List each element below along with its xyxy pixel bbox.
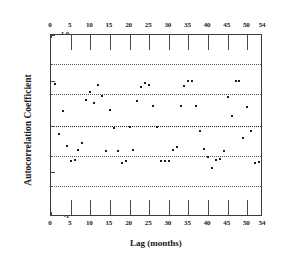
x-axis-title: Lag (months): [50, 238, 262, 248]
x-label-bottom-35: 35: [184, 219, 191, 227]
x-label-top-50: 50: [243, 21, 250, 29]
x-label-top-15: 15: [106, 21, 113, 29]
plot-area: [50, 34, 262, 216]
y-axis-title: Autocorrelation Coefficient: [23, 40, 33, 220]
data-point: [199, 130, 201, 132]
x-edge-tick-bottom-5: [71, 212, 72, 215]
x-label-bottom-40: 40: [204, 219, 211, 227]
x-label-bottom-10: 10: [86, 219, 93, 227]
data-point: [187, 80, 189, 82]
data-point: [183, 85, 185, 87]
data-point: [101, 95, 103, 97]
x-edge-tick-top-25: [149, 35, 150, 38]
data-point: [93, 102, 95, 104]
data-point: [113, 127, 115, 129]
x-edge-tick-bottom-20: [130, 212, 131, 215]
lower-inner-band: [51, 156, 261, 157]
data-point: [176, 146, 178, 148]
data-point: [109, 109, 111, 111]
data-point: [89, 91, 91, 93]
data-point: [180, 105, 182, 107]
x-edge-tick-top-20: [130, 35, 131, 38]
x-label-bottom-45: 45: [223, 219, 230, 227]
x-label-bottom-50: 50: [243, 219, 250, 227]
x-label-top-25: 25: [145, 21, 152, 29]
data-point: [62, 110, 64, 112]
data-point: [74, 159, 76, 161]
x-edge-tick-top-5: [71, 35, 72, 38]
x-edge-tick-top-10: [90, 35, 91, 38]
data-point: [231, 115, 233, 117]
x-label-bottom-25: 25: [145, 219, 152, 227]
data-point: [211, 167, 213, 169]
data-point: [97, 84, 99, 86]
data-point: [156, 126, 158, 128]
x-edge-tick-bottom-25: [149, 212, 150, 215]
x-label-bottom-0: 0: [48, 219, 51, 227]
x-edge-tick-top-50: [247, 35, 248, 38]
y-edge-tick-0.5: [51, 81, 55, 82]
x-label-top-20: 20: [125, 21, 132, 29]
lower-outer-band: [51, 186, 261, 187]
autocorrelation-scatter-figure: Autocorrelation Coefficient 1.00.50-0.5-…: [0, 0, 285, 260]
x-label-top-0: 0: [48, 21, 51, 29]
x-label-top-35: 35: [184, 21, 191, 29]
data-point: [105, 150, 107, 152]
data-point: [207, 156, 209, 158]
x-edge-tick-top-40: [208, 35, 209, 38]
data-point: [160, 160, 162, 162]
upper-inner-band: [51, 94, 261, 95]
x-label-top-10: 10: [86, 21, 93, 29]
data-point: [136, 100, 138, 102]
data-point: [223, 150, 225, 152]
data-point: [195, 105, 197, 107]
data-point: [66, 145, 68, 147]
data-point: [152, 105, 154, 107]
x-label-top-5: 5: [68, 21, 71, 29]
x-edge-tick-bottom-40: [208, 212, 209, 215]
x-edge-tick-top-15: [110, 35, 111, 38]
x-edge-tick-bottom-15: [110, 212, 111, 215]
data-point: [77, 149, 79, 151]
data-point: [242, 137, 244, 139]
data-point: [172, 149, 174, 151]
data-point: [215, 159, 217, 161]
y-edge-tick--0.5: [51, 172, 55, 173]
data-point: [168, 160, 170, 162]
data-point: [54, 83, 56, 85]
data-point: [132, 149, 134, 151]
data-point: [246, 106, 248, 108]
x-label-bottom-54: 54: [259, 219, 266, 227]
data-point: [258, 161, 260, 163]
x-label-bottom-30: 30: [164, 219, 171, 227]
x-label-top-30: 30: [164, 21, 171, 29]
y-edge-tick-1: [51, 35, 55, 36]
x-label-bottom-5: 5: [68, 219, 71, 227]
x-label-top-54: 54: [259, 21, 266, 29]
data-point: [117, 150, 119, 152]
data-point: [238, 80, 240, 82]
x-label-bottom-20: 20: [125, 219, 132, 227]
data-point: [254, 162, 256, 164]
x-edge-tick-bottom-45: [228, 212, 229, 215]
data-point: [85, 99, 87, 101]
x-label-top-45: 45: [223, 21, 230, 29]
x-edge-tick-bottom-30: [169, 212, 170, 215]
x-edge-tick-bottom-0: [51, 212, 52, 215]
data-point: [235, 80, 237, 82]
data-point: [203, 148, 205, 150]
data-point: [250, 130, 252, 132]
x-edge-tick-bottom-50: [247, 212, 248, 215]
data-point: [144, 82, 146, 84]
x-edge-tick-top-30: [169, 35, 170, 38]
data-point: [129, 126, 131, 128]
x-label-top-40: 40: [204, 21, 211, 29]
data-point: [121, 162, 123, 164]
data-point: [125, 160, 127, 162]
x-edge-tick-top-35: [188, 35, 189, 38]
data-point: [58, 133, 60, 135]
data-point: [81, 142, 83, 144]
upper-outer-band: [51, 64, 261, 65]
y-edge-tick-0: [51, 126, 55, 127]
data-point: [70, 160, 72, 162]
